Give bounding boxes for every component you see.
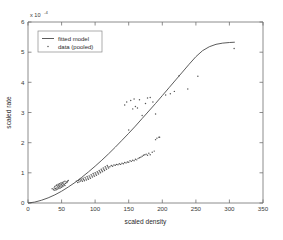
data-point	[174, 91, 175, 92]
data-point	[121, 162, 122, 163]
data-point	[94, 175, 95, 176]
x-tick-label: 300	[224, 205, 235, 212]
data-point	[104, 170, 105, 171]
data-point	[113, 164, 114, 165]
data-point	[100, 172, 101, 173]
data-point	[77, 182, 78, 183]
data-point	[126, 101, 127, 102]
data-point	[53, 189, 54, 190]
data-point	[112, 165, 113, 166]
data-point	[136, 159, 137, 160]
data-point	[57, 187, 58, 188]
data-points-group	[51, 48, 234, 191]
x-tick-label: 100	[90, 205, 101, 212]
data-point	[128, 129, 129, 130]
data-point	[115, 165, 116, 166]
y-tick-label: 5	[21, 48, 25, 55]
data-point	[65, 183, 66, 184]
x-tick-label: 200	[157, 205, 168, 212]
data-point	[141, 156, 142, 157]
data-point	[149, 154, 150, 155]
data-point	[68, 180, 69, 181]
data-point	[93, 174, 94, 175]
scatter-plot: 0 50 100 150 200 250 300 350	[0, 0, 283, 240]
data-point	[91, 175, 92, 176]
y-axis-exponent: x 10 -4	[30, 10, 48, 18]
y-tick-label: 4	[21, 79, 25, 86]
data-point	[98, 173, 99, 174]
data-point	[59, 186, 60, 187]
y-exponent-base: x 10	[30, 12, 41, 18]
legend-label-fitted-model: fitted model	[58, 36, 89, 42]
legend-swatch-data-pooled	[47, 46, 49, 48]
data-point	[61, 187, 62, 188]
data-point	[81, 179, 82, 180]
data-point	[154, 150, 155, 151]
data-point	[155, 139, 156, 140]
data-point	[53, 187, 54, 188]
data-point	[79, 179, 80, 180]
data-point	[54, 190, 55, 191]
data-point	[87, 177, 88, 178]
data-point	[102, 171, 103, 172]
data-point	[133, 98, 134, 99]
data-point	[101, 170, 102, 171]
data-point	[54, 186, 55, 187]
data-point	[170, 93, 171, 94]
data-point	[82, 181, 83, 182]
data-point	[137, 107, 138, 108]
data-point	[76, 181, 77, 182]
data-point	[57, 188, 58, 189]
data-point	[139, 157, 140, 158]
data-point	[58, 185, 59, 186]
data-point	[92, 176, 93, 177]
fitted-model-curve	[28, 42, 235, 203]
data-point	[155, 113, 156, 114]
data-point	[123, 163, 124, 164]
y-tick-label: 2	[21, 139, 25, 146]
data-point	[132, 159, 133, 160]
x-axis-title: scaled density	[125, 218, 167, 226]
data-point	[60, 187, 61, 188]
data-point	[147, 97, 148, 98]
data-point	[133, 160, 134, 161]
data-point	[80, 180, 81, 181]
data-point	[119, 163, 120, 164]
data-point	[129, 160, 130, 161]
y-tick-label: 0	[21, 199, 25, 206]
data-point	[97, 172, 98, 173]
data-point	[95, 173, 96, 174]
data-point	[124, 162, 125, 163]
data-point	[66, 182, 67, 183]
legend[interactable]: fitted model data (pooled)	[38, 31, 102, 52]
data-point	[108, 167, 109, 168]
data-point	[124, 104, 125, 105]
data-point	[148, 153, 149, 154]
data-point	[233, 48, 234, 49]
data-point	[88, 178, 89, 179]
data-point	[92, 173, 93, 174]
x-tick-label: 0	[26, 205, 30, 212]
data-point	[96, 175, 97, 176]
data-point	[117, 164, 118, 165]
y-axis-title: scaled rate	[5, 96, 12, 129]
data-point	[86, 179, 87, 180]
data-point	[88, 175, 89, 176]
data-point	[98, 170, 99, 171]
x-tick-label: 350	[258, 205, 269, 212]
data-point	[109, 166, 110, 167]
data-point	[137, 158, 138, 159]
data-point	[135, 159, 136, 160]
data-point	[106, 168, 107, 169]
y-exponent-power: -4	[44, 10, 48, 15]
data-point	[152, 101, 153, 102]
x-tick-label: 250	[191, 205, 202, 212]
data-point	[125, 162, 126, 163]
data-point	[128, 162, 129, 163]
figure-container: 0 50 100 150 200 250 300 350	[0, 0, 283, 240]
data-point	[62, 186, 63, 187]
data-point	[104, 166, 105, 167]
data-point	[178, 75, 179, 76]
fitted-model-path	[28, 42, 235, 203]
data-point	[120, 164, 121, 165]
